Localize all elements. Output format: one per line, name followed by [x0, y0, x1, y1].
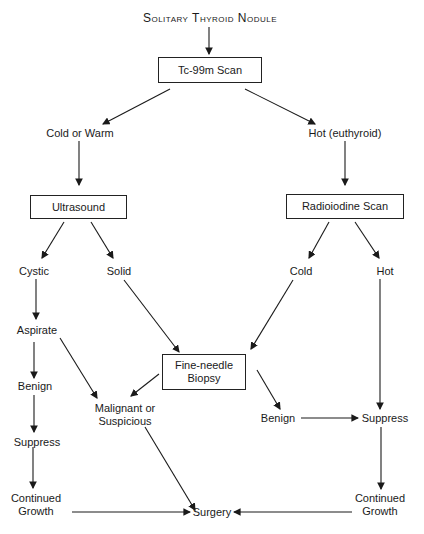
node-continued-growth-left: Continued Growth — [8, 492, 64, 518]
node-continued-growth-right: Continued Growth — [352, 492, 408, 518]
node-suppress-right: Suppress — [360, 412, 410, 425]
ultrasound-label: Ultrasound — [52, 201, 105, 214]
node-benign-right: Benign — [258, 412, 298, 425]
node-hot: Hot — [370, 265, 400, 278]
malignant-line1: Malignant or — [90, 402, 160, 415]
node-benign-left: Benign — [12, 380, 58, 393]
fna-label-line1: Fine-needle — [175, 359, 233, 372]
node-aspirate: Aspirate — [12, 324, 62, 337]
box-radioiodine-scan: Radioiodine Scan — [286, 194, 404, 219]
node-solid: Solid — [102, 265, 136, 278]
node-suppress-left: Suppress — [12, 436, 62, 449]
node-cystic: Cystic — [14, 265, 54, 278]
continued-right-line1: Continued — [352, 492, 408, 505]
node-cold-or-warm: Cold or Warm — [40, 127, 120, 140]
continued-right-line2: Growth — [352, 505, 408, 518]
node-cold: Cold — [284, 265, 318, 278]
node-surgery: Surgery — [190, 506, 234, 519]
node-malignant-suspicious: Malignant or Suspicious — [90, 402, 160, 428]
diagram-title: Solitary Thyroid Nodule — [130, 12, 290, 25]
box-ultrasound: Ultrasound — [30, 195, 127, 219]
node-hot-euthyroid: Hot (euthyroid) — [300, 127, 390, 140]
box-fine-needle-biopsy: Fine-needle Biopsy — [162, 354, 246, 390]
fna-label-line2: Biopsy — [187, 372, 220, 385]
continued-left-line2: Growth — [8, 505, 64, 518]
continued-left-line1: Continued — [8, 492, 64, 505]
radioiodine-label: Radioiodine Scan — [302, 200, 388, 213]
malignant-line2: Suspicious — [90, 415, 160, 428]
tc99m-label: Tc-99m Scan — [178, 64, 242, 77]
box-tc99m-scan: Tc-99m Scan — [158, 57, 262, 83]
